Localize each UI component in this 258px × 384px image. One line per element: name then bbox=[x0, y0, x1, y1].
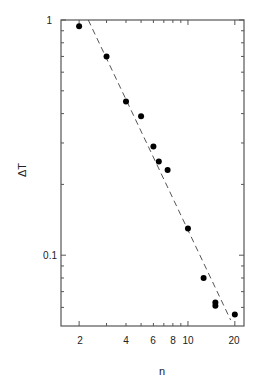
data-point bbox=[123, 99, 129, 105]
x-tick-label: 10 bbox=[182, 335, 194, 346]
x-tick-label: 4 bbox=[123, 335, 129, 346]
x-tick-label: 20 bbox=[228, 335, 240, 346]
data-point bbox=[185, 225, 191, 231]
y-tick-label-1: 1 bbox=[46, 15, 52, 26]
x-axis-label: n bbox=[159, 365, 165, 377]
data-point bbox=[138, 113, 144, 119]
fit-line bbox=[88, 20, 230, 320]
x-tick-label: 2 bbox=[77, 335, 83, 346]
plot-frame bbox=[61, 20, 244, 326]
data-point bbox=[150, 143, 156, 149]
chart: 1 0.1 2 4 6 8 10 20 n ΔT bbox=[0, 0, 258, 384]
plot-area bbox=[61, 20, 244, 326]
data-point bbox=[104, 53, 110, 59]
data-point bbox=[165, 167, 171, 173]
fit-line-segment bbox=[88, 20, 230, 320]
data-point bbox=[212, 303, 218, 309]
data-points bbox=[76, 23, 238, 317]
data-point bbox=[76, 23, 82, 29]
data-point bbox=[201, 275, 207, 281]
data-point bbox=[232, 311, 238, 317]
y-axis-label: ΔT bbox=[16, 163, 28, 177]
axis-ticks bbox=[61, 20, 244, 326]
x-tick-label: 8 bbox=[170, 335, 176, 346]
y-tick-label-0.1: 0.1 bbox=[43, 250, 57, 261]
x-tick-label: 6 bbox=[150, 335, 156, 346]
data-point bbox=[156, 159, 162, 165]
x-tick-labels: 2 4 6 8 10 20 bbox=[77, 335, 240, 346]
